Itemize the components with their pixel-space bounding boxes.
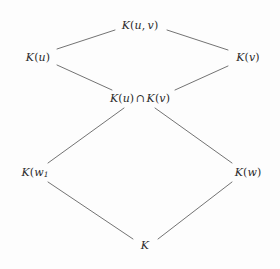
lattice-diagram: K(u, v)K(u)K(v)K(u)∩K(v)K(w1K(w)K	[0, 0, 280, 269]
node-label-upper-right: K(v)	[236, 52, 259, 63]
glyph: w	[247, 166, 257, 179]
node-label-upper-left: K(u)	[26, 52, 50, 63]
edge-upper-left-to-middle	[57, 65, 112, 90]
edge-top-to-upper-right	[167, 30, 228, 50]
node-label-lower-right: K(w)	[235, 167, 262, 178]
glyph: u	[123, 92, 130, 105]
edge-middle-to-lower-left	[48, 108, 124, 163]
edge-middle-to-lower-right	[155, 108, 232, 163]
glyph: )	[255, 51, 259, 64]
glyph: ∩	[134, 92, 146, 105]
edge-layer	[0, 0, 280, 269]
glyph: 1	[44, 170, 49, 179]
node-label-top: K(u, v)	[122, 20, 159, 31]
glyph: u	[134, 19, 141, 32]
glyph: K	[141, 239, 149, 252]
glyph: )	[257, 166, 261, 179]
edge-bottom-to-lower-right	[158, 182, 232, 239]
glyph: K	[147, 92, 155, 105]
glyph: )	[166, 92, 170, 105]
node-label-lower-left: K(w1	[21, 167, 48, 178]
edge-upper-right-to-middle	[175, 66, 228, 90]
edges-group	[48, 30, 232, 239]
node-label-bottom: K	[141, 240, 149, 251]
glyph: w	[34, 166, 44, 179]
glyph: )	[46, 51, 50, 64]
edge-upper-left-to-top	[57, 30, 115, 49]
glyph: u	[39, 51, 46, 64]
node-label-middle: K(u)∩K(v)	[110, 93, 170, 104]
glyph: )	[154, 19, 158, 32]
edge-lower-left-to-bottom	[48, 182, 133, 239]
